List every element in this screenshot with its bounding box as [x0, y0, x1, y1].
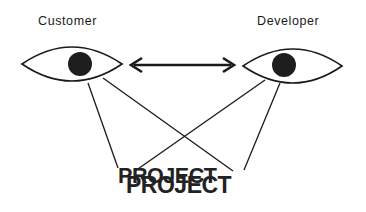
developer-label: Developer — [257, 14, 319, 28]
developer-eye-icon — [243, 49, 342, 83]
edge-customer-project-left — [88, 83, 118, 168]
customer-label: Customer — [38, 14, 97, 28]
edge-developer-project-right — [244, 83, 280, 170]
bidirectional-arrow-icon — [131, 58, 234, 72]
project-label-duplicate: PROJECT — [126, 172, 231, 199]
connector-lines — [88, 78, 280, 171]
customer-eye-icon — [22, 47, 122, 81]
edge-customer-project-right — [103, 78, 233, 171]
edge-developer-project-left — [135, 80, 265, 171]
